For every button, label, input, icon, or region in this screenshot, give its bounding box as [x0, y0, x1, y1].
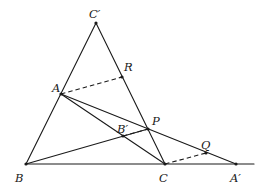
- point-b: [24, 162, 27, 165]
- label-A: A: [51, 81, 60, 95]
- point-a-prime: [234, 162, 237, 165]
- label-Q: Q: [201, 138, 211, 152]
- label-R: R: [123, 60, 133, 74]
- point-r: [120, 75, 123, 78]
- label-B-prime: B′: [116, 122, 128, 136]
- label-C: C: [159, 171, 168, 185]
- point-c: [163, 162, 166, 165]
- dashed-C-Q: [165, 153, 206, 164]
- point-labels: C′ R A P B′ Q B C A′: [14, 7, 241, 185]
- line-Cprime-C: [96, 23, 165, 164]
- label-B: B: [14, 171, 23, 185]
- line-B-P: [26, 129, 148, 164]
- label-P: P: [151, 114, 160, 128]
- point-c-prime: [94, 21, 97, 24]
- dashed-A-R: [61, 77, 122, 94]
- label-A-prime: A′: [229, 171, 241, 185]
- geometry-diagram: C′ R A P B′ Q B C A′: [0, 0, 270, 195]
- dashed-lines: [61, 77, 206, 164]
- point-p: [146, 127, 149, 130]
- label-C-prime: C′: [89, 7, 101, 21]
